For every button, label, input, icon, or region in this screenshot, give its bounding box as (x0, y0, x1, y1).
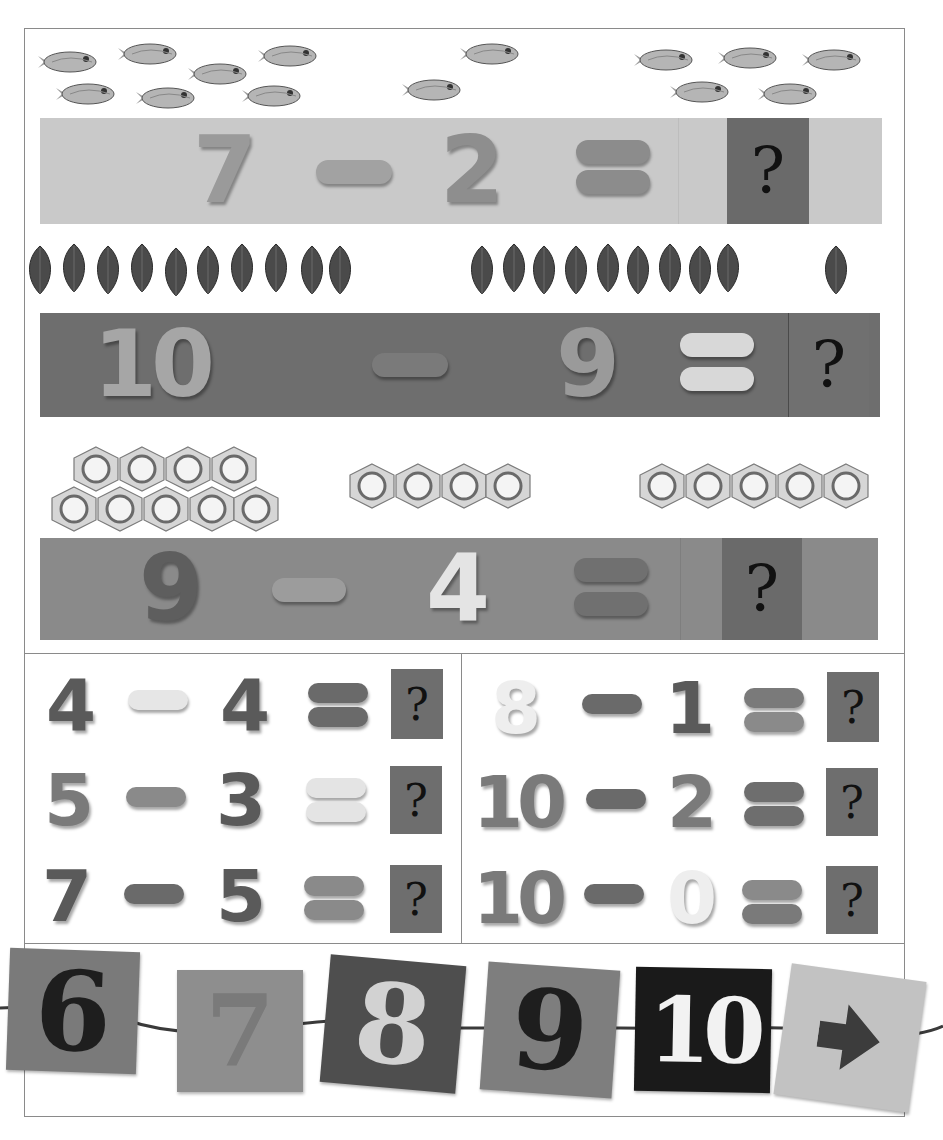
equation-strip-2: 10 9 ? (40, 313, 880, 417)
minuend-digit: 8 (488, 670, 544, 746)
hex-nut-group-2 (348, 462, 538, 512)
subtrahend-digit: 4 (212, 668, 278, 742)
leaf-group-3 (818, 244, 858, 300)
strip-seam (678, 118, 679, 224)
fish-group-3 (632, 38, 882, 113)
minus-sign (372, 353, 448, 377)
minus-sign (272, 578, 346, 602)
answer-box: ? (390, 766, 442, 834)
equals-sign-bottom (308, 707, 368, 727)
equals-sign-top (306, 778, 366, 798)
minus-sign (584, 884, 644, 904)
minuend-digit: 10 (474, 764, 560, 840)
subtrahend-digit: 1 (670, 670, 710, 746)
minus-sign (124, 884, 184, 904)
equals-sign-top (742, 880, 802, 900)
minuend-digit: 7 (190, 118, 260, 224)
number-tag-9: 9 (480, 962, 621, 1099)
equals-sign-top (574, 558, 648, 582)
minuend-digit: 10 (474, 860, 560, 936)
equals-sign-top (308, 683, 368, 703)
equals-sign-bottom (306, 802, 366, 822)
subtrahend-digit: 2 (432, 118, 512, 224)
equals-sign-top (576, 140, 650, 164)
equals-sign-top (744, 688, 804, 708)
divider-top-bottom (24, 653, 905, 654)
minuend-digit: 9 (136, 538, 206, 640)
minus-sign (582, 694, 642, 714)
minus-sign (586, 789, 646, 809)
minuend-digit: 10 (86, 313, 216, 417)
minuend-digit: 7 (34, 858, 100, 934)
equals-sign-bottom (576, 170, 650, 194)
hex-nut-group-1 (50, 445, 280, 535)
equals-sign-bottom (680, 367, 754, 391)
subtrahend-digit: 2 (664, 764, 720, 840)
subtrahend-digit: 5 (208, 858, 274, 934)
leaf-group-1 (24, 240, 364, 300)
answer-box: ? (788, 313, 869, 417)
equation-strip-1: 7 2 ? (40, 118, 882, 224)
strip-seam (680, 538, 681, 640)
answer-box: ? (391, 669, 443, 739)
minus-sign (128, 690, 188, 710)
answer-box: ? (826, 866, 878, 934)
answer-box: ? (390, 865, 442, 933)
subtrahend-digit: 9 (548, 313, 628, 417)
equation-strip-3: 9 4 ? (40, 538, 878, 640)
answer-box: ? (827, 672, 879, 742)
equals-sign-bottom (574, 592, 648, 616)
minus-sign (126, 787, 186, 807)
minus-sign (316, 160, 392, 184)
equals-sign-top (744, 782, 804, 802)
number-tag-8: 8 (320, 954, 467, 1093)
answer-box: ? (722, 538, 802, 640)
fish-group-2 (400, 38, 540, 113)
equals-sign-bottom (744, 712, 804, 732)
equals-sign-top (680, 333, 754, 357)
arrow-tag (773, 963, 926, 1113)
leaf-group-2 (466, 240, 756, 300)
number-tag-6: 6 (6, 948, 140, 1074)
equals-sign-top (304, 876, 364, 896)
number-tag-7: 7 (177, 970, 303, 1092)
equals-sign-bottom (744, 806, 804, 826)
arrow-right-icon (813, 999, 886, 1077)
equals-sign-bottom (304, 900, 364, 920)
hex-nut-group-3 (638, 462, 873, 512)
subtrahend-digit: 4 (418, 538, 498, 640)
minuend-digit: 5 (36, 762, 102, 838)
divider-small-columns (461, 653, 462, 943)
answer-box: ? (826, 768, 878, 836)
fish-group-1 (36, 38, 336, 113)
subtrahend-digit: 3 (208, 762, 274, 838)
equals-sign-bottom (742, 904, 802, 924)
subtrahend-digit: 0 (664, 860, 720, 936)
number-tag-10: 10 (634, 967, 772, 1093)
minuend-digit: 4 (38, 668, 104, 742)
answer-box: ? (727, 118, 809, 224)
